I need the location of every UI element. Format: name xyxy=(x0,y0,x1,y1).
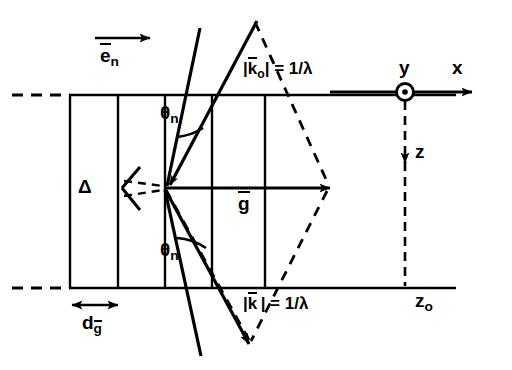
delta-wedge-lower-solid xyxy=(122,188,140,210)
coordinate-axes xyxy=(330,84,472,287)
delta-wedge-upper-solid xyxy=(122,167,140,188)
incident-beam-lower xyxy=(165,190,201,356)
label-k0-magnitude: |ko| = 1/λ xyxy=(243,60,312,80)
label-k-magnitude: |k | = 1/λ xyxy=(243,295,308,312)
label-axis-y: y xyxy=(399,58,410,77)
label-g-vector: g xyxy=(238,194,250,213)
ewald-lower-right-edge xyxy=(251,191,327,341)
label-axis-z: z xyxy=(415,142,425,161)
label-axis-x: x xyxy=(452,58,463,77)
delta-wedge-upper-dashed xyxy=(124,181,163,186)
label-e-n: en xyxy=(100,46,119,69)
delta-wedge-lower-dashed xyxy=(124,190,163,196)
theta-arc-bottom xyxy=(177,238,206,248)
label-z-zero: zo xyxy=(415,291,433,314)
ewald-sphere-diagram xyxy=(0,0,512,370)
label-delta: Δ xyxy=(78,177,92,196)
delta-wedge xyxy=(122,167,163,210)
diagram-canvas: en θn θn Δ g |ko| = 1/λ |k | = 1/λ dg x … xyxy=(0,0,512,370)
diffracted-beam-lower xyxy=(166,191,249,344)
y-axis-center-dot-icon xyxy=(402,89,408,95)
label-d-g: dg xyxy=(82,313,102,336)
label-theta-n-bottom: θn xyxy=(160,240,179,263)
label-theta-n-top: θn xyxy=(160,103,179,126)
